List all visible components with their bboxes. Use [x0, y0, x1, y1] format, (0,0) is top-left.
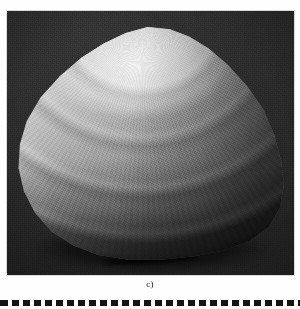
figure-caption: c): [0, 279, 300, 290]
shell-photograph: [7, 11, 294, 275]
figure-panel: c): [0, 0, 300, 309]
dashed-separator-rule: [0, 300, 300, 306]
